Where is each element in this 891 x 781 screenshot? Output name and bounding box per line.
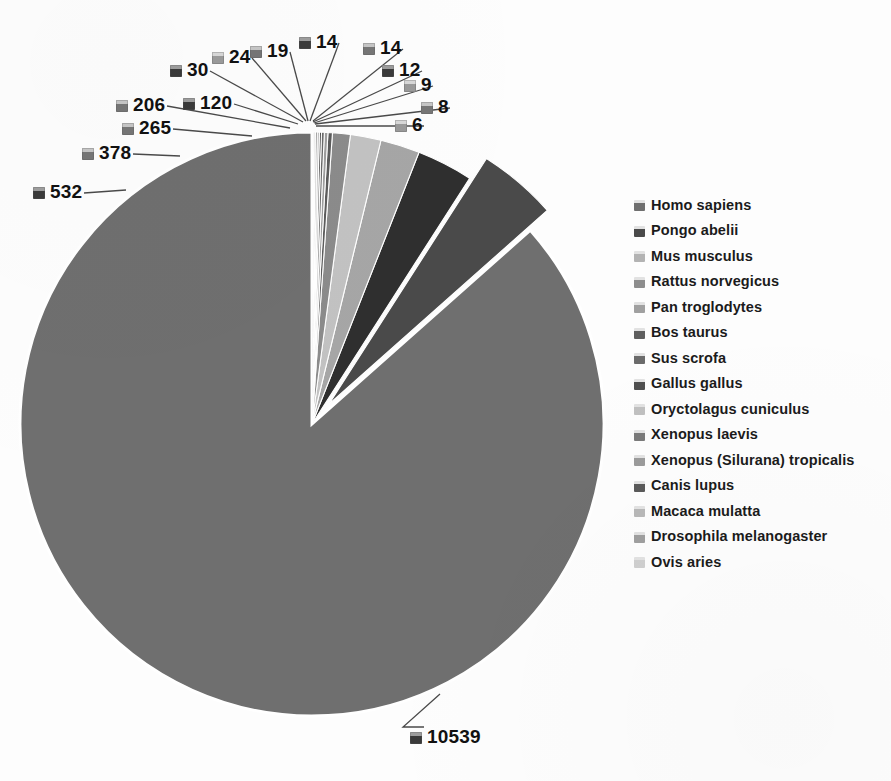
legend-item-label: Oryctolagus cuniculus [651, 402, 809, 417]
data-label-value: 265 [139, 118, 171, 137]
data-label-marker-icon [299, 37, 311, 49]
legend-item-label: Drosophila melanogaster [651, 529, 827, 544]
data-label-value: 19 [267, 41, 289, 60]
data-label-marker-icon [363, 43, 375, 55]
pie-chart-graphic [0, 0, 630, 781]
data-label: 532 [33, 182, 82, 201]
data-label: 8 [421, 97, 449, 116]
data-label-value: 14 [380, 38, 402, 57]
legend-item[interactable]: Pan troglodytes [634, 294, 884, 320]
data-label: 6 [395, 115, 423, 134]
legend-item-label: Pongo abelii [651, 223, 738, 238]
data-label-marker-icon [212, 52, 224, 64]
data-label: 9 [404, 75, 432, 94]
legend-item[interactable]: Bos taurus [634, 320, 884, 346]
data-label-marker-icon [382, 65, 394, 77]
data-label-value: 9 [421, 75, 432, 94]
data-label-value: 10539 [427, 727, 481, 746]
legend-item-label: Homo sapiens [651, 198, 751, 213]
data-label-marker-icon [82, 148, 94, 160]
leader-line [310, 43, 339, 121]
data-label-marker-icon [33, 187, 45, 199]
legend-swatch-icon [634, 557, 645, 568]
legend-swatch-icon [634, 532, 645, 543]
legend-item-label: Gallus gallus [651, 376, 743, 391]
pie-slices-group [20, 132, 604, 716]
legend-swatch-icon [634, 430, 645, 441]
data-label-value: 8 [438, 97, 449, 116]
data-label-value: 30 [187, 60, 209, 79]
data-label-marker-icon [395, 120, 407, 132]
data-label-marker-icon [116, 100, 128, 112]
legend-swatch-icon [634, 404, 645, 415]
legend-swatch-icon [634, 481, 645, 492]
data-label: 378 [82, 143, 131, 162]
data-label-value: 14 [316, 32, 338, 51]
leader-line [290, 52, 308, 121]
legend-item-label: Canis lupus [651, 478, 734, 493]
legend-item-label: Xenopus laevis [651, 427, 758, 442]
data-label-value: 120 [200, 93, 232, 112]
legend-swatch-icon [634, 506, 645, 517]
data-label-marker-icon [122, 123, 134, 135]
legend-swatch-icon [634, 379, 645, 390]
legend-swatch-icon [634, 455, 645, 466]
data-label-value: 378 [99, 143, 131, 162]
data-label: 19 [250, 41, 289, 60]
data-label-value: 206 [133, 95, 165, 114]
legend-item[interactable]: Ovis aries [634, 549, 884, 575]
data-label: 10539 [410, 727, 481, 746]
legend-item[interactable]: Pongo abelii [634, 218, 884, 244]
legend-item[interactable]: Canis lupus [634, 473, 884, 499]
data-label: 24 [212, 47, 251, 66]
data-label: 30 [170, 60, 209, 79]
legend-item[interactable]: Rattus norvegicus [634, 269, 884, 295]
legend-swatch-icon [634, 328, 645, 339]
legend-item[interactable]: Xenopus laevis [634, 422, 884, 448]
legend-swatch-icon [634, 277, 645, 288]
legend-swatch-icon [634, 251, 645, 262]
legend-item-label: Bos taurus [651, 325, 728, 340]
legend-item[interactable]: Macaca mulatta [634, 498, 884, 524]
data-label-marker-icon [421, 102, 433, 114]
data-label: 265 [122, 118, 171, 137]
data-label: 206 [116, 95, 165, 114]
legend-item-label: Ovis aries [651, 555, 721, 570]
legend-item[interactable]: Gallus gallus [634, 371, 884, 397]
legend-item-label: Sus scrofa [651, 351, 726, 366]
legend-item-label: Pan troglodytes [651, 300, 762, 315]
leader-line [133, 154, 180, 156]
data-label-marker-icon [170, 65, 182, 77]
data-label-marker-icon [404, 80, 416, 92]
data-label-marker-icon [183, 98, 195, 110]
legend-item[interactable]: Oryctolagus cuniculus [634, 396, 884, 422]
legend-item-label: Xenopus (Silurana) tropicalis [651, 453, 855, 468]
pie-chart-area: 10539532378265206120302419141412986 [0, 0, 630, 781]
data-label: 14 [363, 38, 402, 57]
data-label: 120 [183, 93, 232, 112]
legend: Homo sapiensPongo abeliiMus musculusRatt… [634, 192, 884, 575]
legend-swatch-icon [634, 200, 645, 211]
leader-line [173, 129, 252, 136]
data-label-marker-icon [250, 46, 262, 58]
legend-swatch-icon [634, 226, 645, 237]
legend-item[interactable]: Xenopus (Silurana) tropicalis [634, 447, 884, 473]
legend-item[interactable]: Sus scrofa [634, 345, 884, 371]
legend-swatch-icon [634, 353, 645, 364]
data-label: 14 [299, 32, 338, 51]
legend-item[interactable]: Drosophila melanogaster [634, 524, 884, 550]
legend-item-label: Rattus norvegicus [651, 274, 779, 289]
legend-item[interactable]: Mus musculus [634, 243, 884, 269]
legend-swatch-icon [634, 302, 645, 313]
legend-item-label: Macaca mulatta [651, 504, 760, 519]
data-label-value: 24 [229, 47, 251, 66]
data-label-marker-icon [410, 732, 422, 744]
data-label-value: 6 [412, 115, 423, 134]
legend-item[interactable]: Homo sapiens [634, 192, 884, 218]
data-label-value: 532 [50, 182, 82, 201]
leader-line [84, 190, 126, 193]
legend-item-label: Mus musculus [651, 249, 753, 264]
